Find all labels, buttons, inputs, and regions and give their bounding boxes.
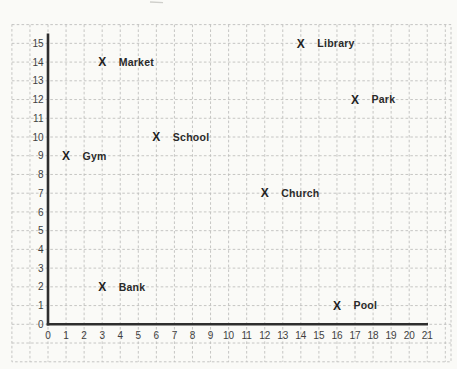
x-marker-icon: X	[98, 55, 106, 69]
x-tick-label: 19	[386, 330, 398, 341]
y-tick-label: 6	[38, 207, 44, 218]
x-marker-icon: X	[62, 149, 70, 163]
x-marker-icon: X	[333, 299, 341, 313]
x-tick-label: 14	[295, 330, 307, 341]
graph-paper-page: 0123456789101112131415012345678910111213…	[0, 0, 457, 369]
point-label: Bank	[119, 281, 146, 293]
y-tick-label: 10	[32, 132, 44, 143]
y-tick-label: 5	[38, 225, 44, 236]
point-label: Gym	[83, 150, 107, 162]
x-tick-label: 4	[117, 330, 123, 341]
point-bank: XBank	[98, 280, 145, 294]
point-label: Pool	[353, 299, 377, 311]
x-tick-label: 17	[349, 330, 361, 341]
y-tick-label: 9	[38, 150, 44, 161]
x-tick-label: 15	[313, 330, 325, 341]
y-tick-label: 12	[32, 94, 44, 105]
x-tick-label: 0	[45, 330, 51, 341]
point-park: XPark	[351, 93, 395, 107]
y-tick-label: 15	[32, 38, 44, 49]
point-label: School	[173, 131, 210, 143]
x-tick-label: 9	[208, 330, 214, 341]
y-tick-label: 1	[38, 300, 44, 311]
y-tick-label: 14	[32, 57, 44, 68]
y-tick-label: 2	[38, 281, 44, 292]
x-tick-label: 12	[259, 330, 271, 341]
y-tick-label: 7	[38, 188, 44, 199]
x-tick-label: 10	[223, 330, 235, 341]
x-tick-label: 7	[172, 330, 178, 341]
x-marker-icon: X	[152, 130, 160, 144]
y-tick-label: 3	[38, 263, 44, 274]
point-label: Library	[317, 37, 354, 49]
y-tick-label: 4	[38, 244, 44, 255]
x-tick-label: 18	[368, 330, 380, 341]
y-tick-label: 11	[33, 113, 44, 124]
y-tick-label: 8	[38, 169, 44, 180]
point-label: Park	[372, 93, 396, 105]
x-tick-label: 20	[404, 330, 416, 341]
x-tick-label: 21	[422, 330, 434, 341]
x-marker-icon: X	[351, 93, 359, 107]
point-label: Church	[281, 187, 319, 199]
point-pool: XPool	[333, 299, 377, 313]
point-label: Market	[119, 56, 155, 68]
x-tick-label: 11	[241, 330, 252, 341]
y-tick-label: 13	[32, 75, 44, 86]
scatter-chart: 0123456789101112131415012345678910111213…	[0, 0, 457, 369]
y-tick-label: 0	[38, 319, 44, 330]
x-tick-label: 16	[331, 330, 343, 341]
point-gym: XGym	[62, 149, 107, 163]
x-tick-label: 8	[190, 330, 196, 341]
scan-artifact	[150, 2, 163, 3]
x-tick-label: 5	[136, 330, 142, 341]
x-marker-icon: X	[297, 37, 305, 51]
x-tick-label: 3	[99, 330, 105, 341]
x-tick-label: 2	[81, 330, 87, 341]
x-marker-icon: X	[261, 186, 269, 200]
x-marker-icon: X	[98, 280, 106, 294]
x-tick-label: 1	[63, 330, 69, 341]
x-tick-label: 6	[154, 330, 160, 341]
x-tick-label: 13	[277, 330, 289, 341]
